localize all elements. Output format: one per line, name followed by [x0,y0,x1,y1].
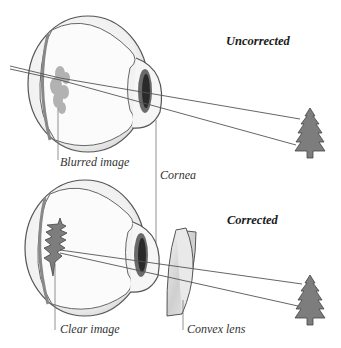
tree-object-icon [295,275,325,325]
tree-object-icon [295,108,325,158]
farsightedness-diagram: Uncorrected Blurred image Cornea Correct… [0,0,341,348]
corrected-eye [25,180,159,316]
blurred-image-label: Blurred image [60,155,129,170]
clear-image-label: Clear image [60,322,120,337]
convex-lens [167,228,196,316]
uncorrected-heading: Uncorrected [226,34,290,49]
corrected-heading: Corrected [227,213,278,228]
pupil-icon [138,238,146,272]
cornea-label: Cornea [160,168,196,183]
convex-lens-label: Convex lens [187,322,245,337]
